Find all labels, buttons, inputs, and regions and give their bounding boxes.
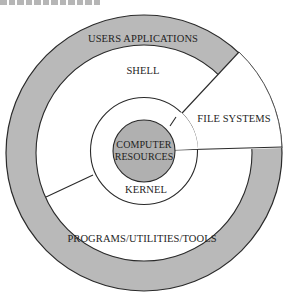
label-resources: RESOURCES (115, 151, 174, 162)
label-computer: COMPUTER (116, 139, 171, 150)
label-shell: SHELL (126, 65, 159, 76)
label-users-applications: USERS APPLICATIONS (88, 33, 198, 44)
label-kernel: KERNEL (125, 184, 167, 195)
label-programs-utilities-tools: PROGRAMS/UTILITIES/TOOLS (67, 233, 216, 244)
os-layer-diagram: USERS APPLICATIONS SHELL FILE SYSTEMS PR… (0, 0, 283, 298)
label-file-systems: FILE SYSTEMS (197, 113, 270, 124)
